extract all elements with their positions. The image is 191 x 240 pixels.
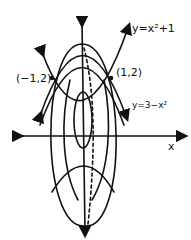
label-x-axis: x: [168, 140, 175, 153]
point-right: [110, 77, 113, 80]
label-point-right: (1,2): [116, 66, 142, 79]
bottom-cap-arc: [52, 166, 114, 192]
label-point-left: (−1,2): [16, 72, 51, 85]
label-y-3-minus-x2: y=3−x²: [132, 100, 167, 110]
inner-surface-right: [92, 80, 108, 200]
rotation-axis: [82, 22, 85, 232]
label-y-x2-plus-1: y=x²+1: [132, 22, 175, 35]
solid-of-revolution-sketch: [0, 0, 191, 240]
